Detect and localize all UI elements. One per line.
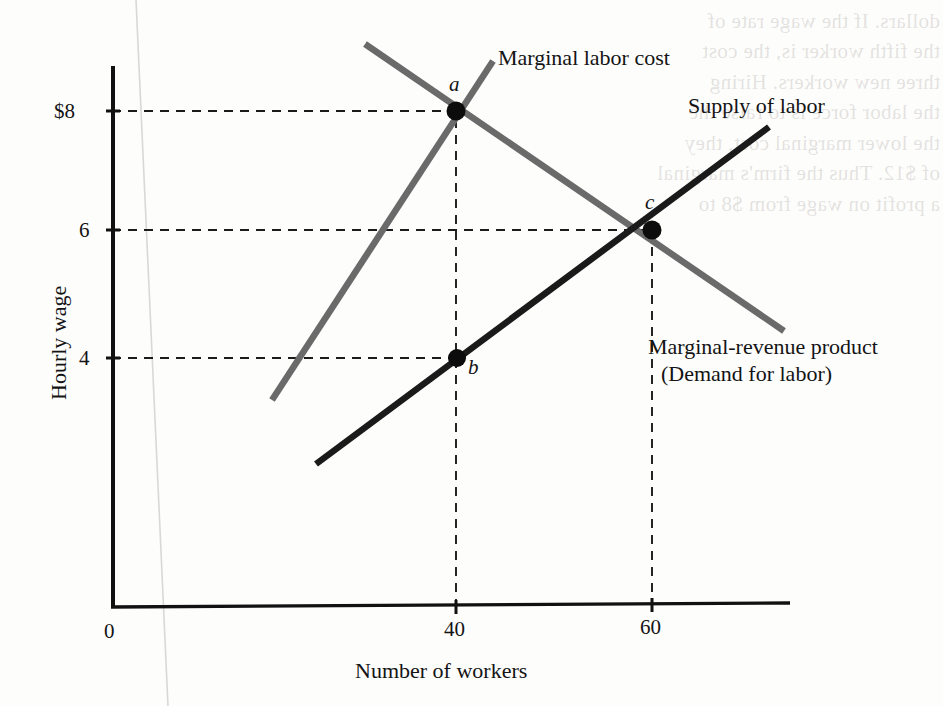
figure-canvas: dollars. If the wage rate of the fifth w… (0, 0, 943, 706)
marginal-revenue-product-label-line2: (Demand for labor) (661, 361, 832, 387)
scan-fold-line (136, 0, 168, 706)
origin-label: 0 (104, 619, 115, 644)
point-c-label: c (645, 190, 654, 215)
y-tick-label-6: 6 (79, 218, 90, 243)
point-c-marker (643, 221, 662, 240)
point-a-marker (447, 102, 466, 121)
x-axis-title: Number of workers (355, 658, 527, 684)
supply-of-labor-curve (316, 127, 769, 464)
x-axis-line (111, 603, 790, 607)
y-tick-label-8: $8 (54, 99, 75, 124)
x-tick-label-60: 60 (640, 615, 661, 640)
y-axis-title: Hourly wage (46, 286, 72, 400)
marginal-labor-cost-label: Marginal labor cost (498, 45, 670, 71)
y-tick-label-4: 4 (79, 346, 90, 371)
point-b-marker (448, 349, 466, 367)
x-tick-label-40: 40 (444, 617, 465, 642)
point-a-label: a (449, 72, 460, 97)
point-b-label: b (468, 355, 479, 380)
marginal-revenue-product-curve (365, 44, 784, 331)
marginal-revenue-product-label-line1: Marginal-revenue product (648, 334, 878, 360)
supply-of-labor-label: Supply of labor (688, 93, 825, 119)
